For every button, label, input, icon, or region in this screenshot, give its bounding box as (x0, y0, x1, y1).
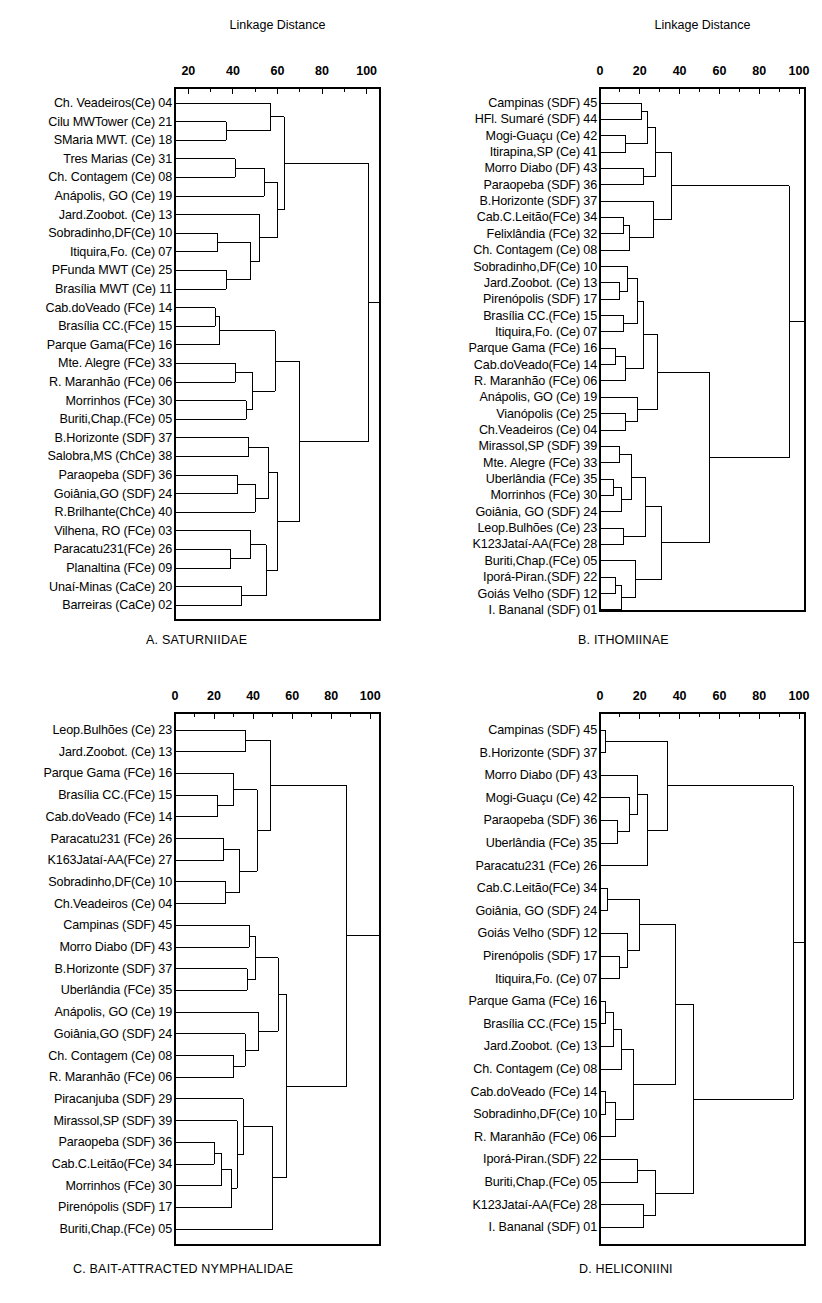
panel-c-caption: C. BAIT-ATTRACTED NYMPHALIDAE (73, 1262, 293, 1276)
axis-tick-label: 60 (253, 64, 303, 78)
axis-tick-label: 20 (163, 64, 213, 78)
axis-tick-label: 100 (774, 689, 822, 703)
plot-frame (600, 713, 805, 1245)
panel-b-caption: B. ITHOMIINAE (578, 633, 669, 647)
plot-frame (175, 713, 380, 1245)
panel-a-saturniidae: Linkage Distance Ch. Veadeiros(Ce) 04Cil… (0, 0, 411, 660)
dendrogram-branches (600, 103, 805, 610)
axis-tick-label: 40 (208, 64, 258, 78)
axis-tick-label: 100 (342, 64, 392, 78)
panel-c-dendrogram (0, 668, 411, 1288)
dendrogram-branches (175, 730, 380, 1229)
axis-tick-label: 100 (345, 689, 395, 703)
panel-d-dendrogram (411, 668, 822, 1288)
panel-d-heliconiini: Campinas (SDF) 45B.Horizonte (SDF) 37Mor… (411, 668, 822, 1303)
axis-tick-label: 100 (774, 64, 822, 78)
plot-frame (600, 88, 805, 611)
axis-tick-label: 80 (297, 64, 347, 78)
panel-b-dendrogram (411, 0, 822, 640)
panel-d-caption: D. HELICONIINI (579, 1262, 673, 1276)
panel-c-bait-attracted-nymphalidae: Leop.Bulhões (Ce) 23Jard.Zoobot. (Ce) 13… (0, 668, 411, 1303)
panel-b-ithomiinae: Linkage Distance Campinas (SDF) 45HFl. S… (411, 0, 822, 660)
dendrogram-branches (600, 730, 805, 1227)
dendrogram-branches (175, 103, 380, 605)
panel-a-caption: A. SATURNIIDAE (146, 633, 247, 647)
panel-a-dendrogram (0, 0, 411, 640)
